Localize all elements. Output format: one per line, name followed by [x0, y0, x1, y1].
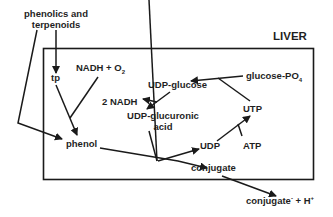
- node-phenol: phenol: [66, 138, 97, 149]
- arrow-udp-to-utp: [217, 116, 250, 141]
- node-conjugate-export-sup2: +: [311, 195, 315, 201]
- node-glucose-po4: glucose-PO4: [246, 70, 302, 81]
- node-phenolics-terpenoids: phenolics and terpenoids: [17, 8, 95, 30]
- line-nadh-cofactor: [70, 77, 98, 118]
- node-conjugate-export-mid: + H: [293, 195, 311, 206]
- node-glucose-po4-sub: 4: [299, 77, 302, 83]
- node-atp: ATP: [243, 140, 261, 151]
- node-udp-glucose: UDP-glucose: [148, 79, 207, 90]
- node-tp: tp: [51, 72, 60, 83]
- liver-label: LIVER: [273, 31, 307, 42]
- node-conjugate-export-text: conjugate: [246, 195, 291, 206]
- node-conjugate-export: conjugate- + H+: [246, 195, 314, 206]
- node-conjugate: conjugate: [191, 162, 236, 173]
- node-phenolics-line2: terpenoids: [17, 19, 95, 30]
- node-udp: UDP: [200, 140, 220, 151]
- node-2-nadh: 2 NADH: [102, 96, 137, 107]
- arrow-to-2nadh: [143, 99, 157, 102]
- node-utp: UTP: [243, 103, 262, 114]
- line-atp-cofactor: [238, 124, 242, 136]
- node-nadh-o2: NADH + O2: [76, 62, 125, 73]
- node-nadh-o2-sub: 2: [122, 69, 125, 75]
- arrow-tp-to-phenol: [56, 85, 77, 135]
- node-glucose-po4-text: glucose-PO: [246, 70, 299, 81]
- node-phenolics-line1: phenolics and: [17, 8, 95, 19]
- node-nadh-o2-text: NADH + O: [76, 62, 122, 73]
- arrow-to-udp: [158, 149, 199, 161]
- node-udp-glucuronic-line1: UDP-glucuronic: [126, 110, 200, 121]
- node-udp-glucuronic-line2: acid: [126, 121, 200, 132]
- node-udp-glucuronic-acid: UDP-glucuronic acid: [126, 110, 200, 132]
- line-utp-cofactor: [218, 78, 250, 101]
